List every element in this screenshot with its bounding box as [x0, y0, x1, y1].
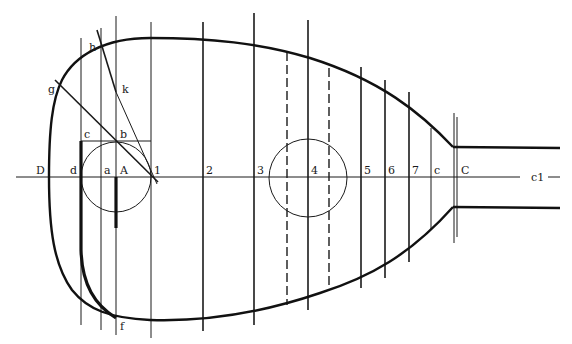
label-c-top: c [84, 128, 90, 141]
label-6: 6 [388, 164, 395, 177]
label-D: D [36, 164, 45, 177]
label-7: 7 [412, 164, 419, 177]
label-b: b [120, 128, 127, 141]
labels: D d a A 1 2 3 4 5 6 7 c C c1 c b g h k f [36, 41, 544, 333]
lute-construction-diagram: D d a A 1 2 3 4 5 6 7 c C c1 c b g h k f [0, 0, 572, 344]
label-1: 1 [154, 164, 161, 177]
label-g: g [48, 83, 55, 96]
label-3: 3 [257, 164, 264, 177]
circles [81, 139, 347, 217]
label-C: C [461, 164, 469, 177]
label-a: a [104, 164, 111, 177]
label-2: 2 [206, 164, 213, 177]
label-f: f [120, 320, 125, 333]
label-k: k [122, 83, 129, 96]
label-c-station: c [434, 164, 440, 177]
label-5: 5 [364, 164, 371, 177]
label-h: h [89, 41, 96, 54]
body-outline [49, 38, 560, 320]
label-4: 4 [311, 164, 318, 177]
label-d: d [70, 164, 77, 177]
label-c1: c1 [531, 171, 544, 184]
label-A: A [119, 164, 129, 177]
